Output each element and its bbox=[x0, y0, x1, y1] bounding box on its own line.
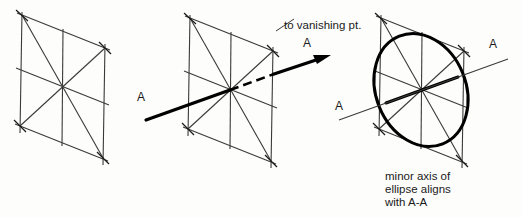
panel2-axis-label-right: A bbox=[303, 36, 311, 50]
panel2-axis-line-to-arrow bbox=[274, 58, 322, 74]
vanishing-point-note: to vanishing pt. bbox=[284, 19, 361, 31]
panel-2-isometric-square-with-axis: A A to vanishing pt. bbox=[137, 13, 361, 168]
panel1-left-edge bbox=[20, 12, 22, 133]
technical-drawing-svg: A A to vanishing pt. bbox=[0, 0, 522, 217]
panel2-arrowhead-icon bbox=[313, 55, 331, 64]
panel1-right-edge bbox=[103, 44, 105, 165]
panel2-left-edge bbox=[188, 15, 190, 136]
panel2-axis-line-dashed bbox=[230, 74, 274, 90]
minor-axis-note-line-1: minor axis of bbox=[385, 170, 451, 182]
panel1-vertical-midline bbox=[62, 29, 63, 146]
diagram-canvas: A A to vanishing pt. bbox=[0, 0, 522, 217]
panel-1-isometric-square bbox=[14, 10, 111, 165]
panel-3-isometric-square-with-ellipse: A A bbox=[335, 13, 508, 168]
minor-axis-note-line-2: ellipse aligns bbox=[385, 183, 451, 195]
panel2-axis-label-left: A bbox=[137, 90, 145, 104]
panel2-right-edge bbox=[271, 47, 273, 168]
panel3-right-edge bbox=[462, 47, 464, 168]
panel3-left-edge bbox=[379, 15, 381, 136]
panel3-axis-label-right: A bbox=[489, 37, 497, 51]
panel3-axis-label-left: A bbox=[335, 99, 343, 113]
minor-axis-note-line-3: with A-A bbox=[384, 196, 428, 208]
panel3-axis-line bbox=[339, 59, 508, 120]
minor-axis-annotation: minor axis of ellipse aligns with A-A bbox=[384, 170, 451, 208]
